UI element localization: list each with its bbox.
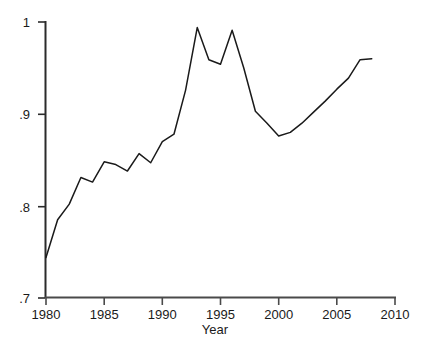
x-tick-label-2005: 2005	[322, 308, 351, 321]
y-tick-label-0_9: .9	[8, 108, 30, 121]
x-axis-ticks	[46, 298, 395, 305]
x-tick-label-2010: 2010	[381, 308, 410, 321]
y-tick-label-1: 1	[8, 16, 30, 29]
data-series-line	[46, 28, 372, 258]
line-chart: 1 .9 .8 .7 1980 1985 1990 1995 2000 2005…	[0, 0, 430, 356]
y-axis-ticks	[38, 22, 45, 298]
x-tick-label-1995: 1995	[206, 308, 235, 321]
x-tick-label-1990: 1990	[148, 308, 177, 321]
y-tick-label-0_7: .7	[8, 292, 30, 305]
x-tick-label-1980: 1980	[32, 308, 61, 321]
x-axis-title: Year	[202, 322, 228, 337]
y-tick-label-0_8: .8	[8, 200, 30, 213]
x-tick-label-1985: 1985	[90, 308, 119, 321]
x-tick-label-2000: 2000	[264, 308, 293, 321]
plot-area	[0, 0, 430, 356]
